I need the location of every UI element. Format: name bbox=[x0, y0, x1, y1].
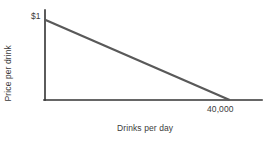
y-axis-title-text: Price per drink bbox=[4, 45, 13, 101]
y-intercept-label: $1 bbox=[31, 12, 41, 21]
x-tick-label-40000: 40,000 bbox=[207, 105, 234, 114]
x-axis-title: Drinks per day bbox=[117, 124, 173, 133]
y-axis-title: Price per drink bbox=[0, 0, 16, 146]
chart-figure: Price per drink $1 40,000 Drinks per day bbox=[0, 0, 271, 146]
